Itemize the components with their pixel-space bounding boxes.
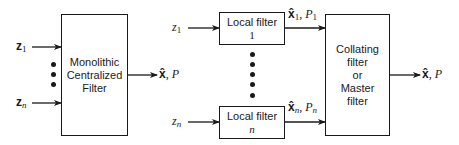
ellipsis-dot — [51, 62, 56, 67]
ellipsis-dot — [250, 82, 255, 87]
ellipsis-dot — [250, 93, 255, 98]
estimate-symbol: x̂ — [159, 67, 166, 81]
covariance-subscript: n — [313, 105, 318, 115]
covariance-symbol: P — [305, 7, 312, 21]
local-filter-1-box: Local filter 1 — [219, 12, 285, 45]
box-label-line: Collating — [336, 43, 379, 56]
collating-master-filter-box: Collating filter or Master filter — [325, 14, 390, 136]
ellipsis-dot — [51, 72, 56, 77]
local-filter-n-box: Local filter n — [219, 106, 285, 139]
input-subscript: 1 — [22, 44, 27, 54]
master-output-label: x̂, P — [422, 67, 442, 82]
centralized-output-label: x̂, P — [159, 67, 179, 82]
box-label-line: Master — [341, 82, 375, 95]
covariance-symbol: P — [172, 67, 179, 81]
estimate-symbol: x̂ — [288, 100, 295, 114]
estimate-symbol: x̂ — [288, 7, 295, 21]
local-output-1-label: x̂1, P1 — [288, 7, 317, 22]
box-label: Local filter — [227, 16, 277, 29]
ellipsis-dot — [250, 52, 255, 57]
ellipsis-dot — [250, 62, 255, 67]
box-label-line: Centralized — [67, 69, 123, 82]
box-label-line: filter — [347, 95, 368, 108]
local-input-zn: zn — [172, 114, 181, 129]
input-subscript: 1 — [177, 25, 182, 35]
ellipsis-dot — [51, 82, 56, 87]
input-subscript: n — [177, 119, 182, 129]
box-label-line: or — [353, 69, 363, 82]
monolithic-centralized-filter-box: Monolithic Centralized Filter — [61, 14, 128, 136]
box-label: Local filter — [227, 110, 277, 123]
box-index: 1 — [249, 29, 255, 42]
local-output-n-label: x̂n, Pn — [288, 100, 317, 115]
box-index: n — [249, 123, 255, 136]
centralized-input-z1: z1 — [16, 39, 27, 54]
box-label-line: Monolithic — [70, 56, 120, 69]
local-input-z1: z1 — [172, 20, 181, 35]
estimate-symbol: x̂ — [422, 67, 429, 81]
covariance-subscript: 1 — [313, 12, 318, 22]
input-subscript: n — [22, 100, 27, 110]
box-label-line: Filter — [82, 82, 106, 95]
centralized-input-zn: zn — [16, 95, 27, 110]
covariance-symbol: P — [435, 67, 442, 81]
covariance-symbol: P — [305, 100, 312, 114]
box-label-line: filter — [347, 56, 368, 69]
ellipsis-dot — [250, 72, 255, 77]
